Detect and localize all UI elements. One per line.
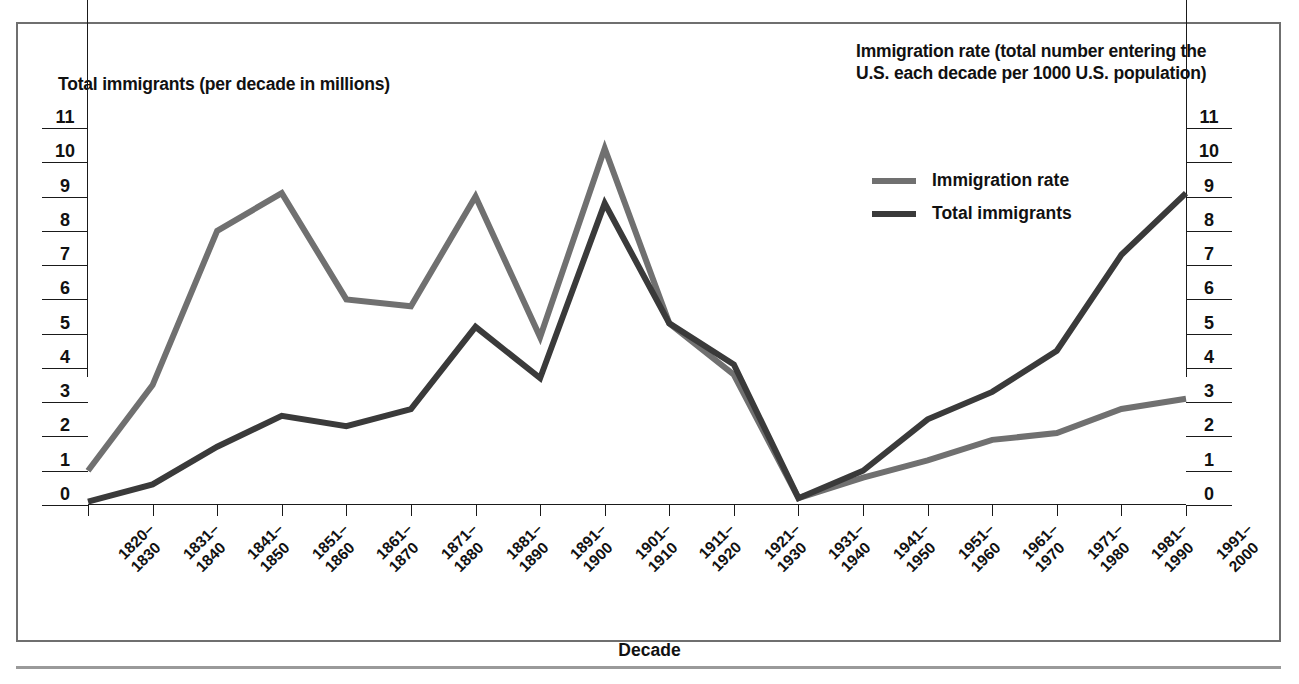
y-tick-right-9 — [1186, 197, 1232, 198]
legend-item-total-immigrants[interactable]: Total immigrants — [872, 197, 1072, 230]
y-tick-label-left-8: 8 — [42, 211, 88, 229]
y-tick-left-8 — [42, 231, 88, 232]
y-tick-label-right-10: 10 — [1186, 142, 1232, 160]
y-tick-label-right-1: 1 — [1186, 451, 1232, 469]
x-tick-1 — [153, 505, 154, 516]
x-tick-4 — [346, 505, 347, 516]
y-tick-label-right-0: 0 — [1186, 485, 1232, 503]
y-tick-right-1 — [1186, 471, 1232, 472]
figure-baseline-rule — [16, 666, 1281, 669]
x-tick-16 — [1121, 505, 1122, 516]
x-tick-11 — [798, 505, 799, 516]
y-tick-label-right-3: 3 — [1186, 382, 1232, 400]
y-tick-label-right-11: 11 — [1186, 108, 1232, 126]
y-tick-label-right-7: 7 — [1186, 245, 1232, 263]
x-tick-2 — [217, 505, 218, 516]
right-axis-caption: Immigration rate (total number entering … — [856, 40, 1206, 85]
left-axis-caption: Total immigrants (per decade in millions… — [58, 73, 390, 95]
legend-label: Immigration rate — [932, 170, 1069, 191]
immigration-chart-figure: Total immigrants (per decade in millions… — [0, 0, 1299, 684]
y-tick-label-right-6: 6 — [1186, 279, 1232, 297]
y-tick-label-left-10: 10 — [42, 142, 88, 160]
y-tick-label-left-1: 1 — [42, 451, 88, 469]
y-tick-left-4 — [42, 368, 88, 369]
y-tick-right-10 — [1186, 162, 1232, 163]
y-tick-right-8 — [1186, 231, 1232, 232]
y-tick-label-right-4: 4 — [1186, 348, 1232, 366]
x-tick-7 — [540, 505, 541, 516]
legend-item-immigration-rate[interactable]: Immigration rate — [872, 164, 1072, 197]
y-tick-right-2 — [1186, 436, 1232, 437]
y-tick-right-7 — [1186, 265, 1232, 266]
y-tick-left-10 — [42, 162, 88, 163]
y-tick-label-left-5: 5 — [42, 314, 88, 332]
x-tick-10 — [734, 505, 735, 516]
y-tick-label-left-2: 2 — [42, 416, 88, 434]
x-tick-8 — [605, 505, 606, 516]
legend-label: Total immigrants — [932, 203, 1072, 224]
y-tick-label-left-11: 11 — [42, 108, 88, 126]
y-tick-label-left-3: 3 — [42, 382, 88, 400]
y-axis-left: 01234567891011 — [42, 128, 88, 505]
y-tick-left-3 — [42, 402, 88, 403]
legend-swatch-icon — [872, 211, 916, 217]
y-tick-left-9 — [42, 197, 88, 198]
y-tick-label-left-0: 0 — [42, 485, 88, 503]
x-tick-17 — [1186, 505, 1187, 516]
x-tick-9 — [669, 505, 670, 516]
y-tick-right-0 — [1186, 505, 1232, 506]
chart-legend: Immigration rateTotal immigrants — [872, 164, 1072, 230]
x-tick-3 — [282, 505, 283, 516]
x-tick-13 — [928, 505, 929, 516]
y-tick-left-6 — [42, 299, 88, 300]
y-tick-label-left-4: 4 — [42, 348, 88, 366]
y-tick-label-right-2: 2 — [1186, 416, 1232, 434]
y-tick-left-7 — [42, 265, 88, 266]
y-tick-right-11 — [1186, 128, 1232, 129]
y-tick-left-1 — [42, 471, 88, 472]
y-tick-right-3 — [1186, 402, 1232, 403]
y-tick-label-right-8: 8 — [1186, 211, 1232, 229]
x-tick-15 — [1057, 505, 1058, 516]
x-axis-title: Decade — [0, 640, 1299, 661]
y-tick-label-left-7: 7 — [42, 245, 88, 263]
y-tick-label-right-9: 9 — [1186, 177, 1232, 195]
y-tick-label-left-9: 9 — [42, 177, 88, 195]
y-axis-right: 01234567891011 — [1186, 128, 1232, 505]
y-tick-left-2 — [42, 436, 88, 437]
y-tick-label-right-5: 5 — [1186, 314, 1232, 332]
y-tick-left-11 — [42, 128, 88, 129]
y-tick-left-0 — [42, 505, 88, 506]
x-tick-0 — [88, 505, 89, 516]
y-tick-left-5 — [42, 334, 88, 335]
x-tick-14 — [992, 505, 993, 516]
x-tick-12 — [863, 505, 864, 516]
y-tick-right-5 — [1186, 334, 1232, 335]
y-tick-right-6 — [1186, 299, 1232, 300]
y-tick-right-4 — [1186, 368, 1232, 369]
y-tick-label-left-6: 6 — [42, 279, 88, 297]
x-tick-6 — [476, 505, 477, 516]
x-tick-5 — [411, 505, 412, 516]
legend-swatch-icon — [872, 178, 916, 184]
